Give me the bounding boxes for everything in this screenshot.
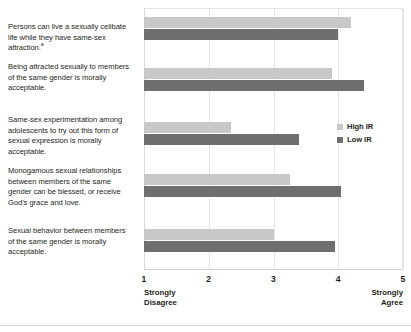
grouped-bar-chart: Persons can live a sexually celibate lif… <box>0 0 411 332</box>
x-tick-label: 4 <box>336 274 341 284</box>
footnote-marker: a <box>41 42 44 48</box>
bar-high-ir <box>144 122 231 133</box>
legend-swatch-icon <box>337 124 343 130</box>
bottom-divider <box>0 325 411 326</box>
legend-item[interactable]: Low IR <box>337 134 399 145</box>
bar-high-ir <box>144 68 332 79</box>
bar-low-ir <box>144 241 335 252</box>
bar-high-ir <box>144 174 290 185</box>
category-label: Same-sex experimentation among adolescen… <box>8 115 132 157</box>
x-tick-label: 2 <box>206 274 211 284</box>
axis-baseline <box>144 269 403 270</box>
legend-label: High IR <box>347 122 373 131</box>
axis-anchor-low: StronglyDisagree <box>144 288 214 308</box>
axis-anchor-high: StronglyAgree <box>333 288 403 308</box>
bar-low-ir <box>144 29 338 40</box>
x-tick-label: 3 <box>271 274 276 284</box>
bar-high-ir <box>144 229 274 240</box>
category-label: Persons can live a sexually celibate lif… <box>8 22 132 54</box>
bar-low-ir <box>144 134 299 145</box>
category-label: Being attracted sexually to members of t… <box>8 62 132 94</box>
category-label-column: Persons can live a sexually celibate lif… <box>0 0 133 270</box>
bar-low-ir <box>144 186 341 197</box>
bar-high-ir <box>144 17 351 28</box>
legend-swatch-icon <box>337 137 343 143</box>
bar-low-ir <box>144 80 364 91</box>
legend-label: Low IR <box>347 135 372 144</box>
category-label: Sexual behavior between members of the s… <box>8 226 132 258</box>
chart-legend: High IRLow IR <box>337 121 399 147</box>
gridline <box>403 9 404 269</box>
legend-item[interactable]: High IR <box>337 121 399 132</box>
x-tick-label: 5 <box>401 274 406 284</box>
category-label: Monogamous sexual relationships between … <box>8 166 132 208</box>
x-tick-label: 1 <box>142 274 147 284</box>
